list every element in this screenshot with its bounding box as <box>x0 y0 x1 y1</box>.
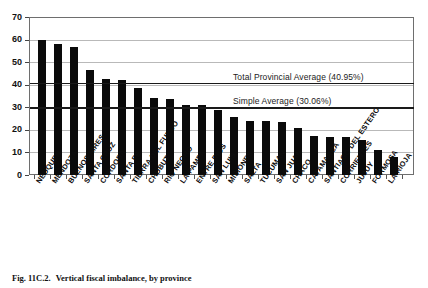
y-axis-tick-label: 40 <box>2 80 22 89</box>
total-provincial-average-line <box>30 83 414 85</box>
total-provincial-average-label: Total Provincial Average (40.95%) <box>233 72 364 82</box>
y-axis-tick-label: 60 <box>2 35 22 44</box>
simple-average-label: Simple Average (30.06%) <box>233 96 332 106</box>
caption-text: Vertical fiscal imbalance, by province <box>56 273 192 283</box>
y-axis-tick-label: 10 <box>2 148 22 157</box>
figure-container: 010203040506070 Total Provincial Average… <box>0 0 428 288</box>
caption-number: Fig. 11C.2. <box>12 273 51 283</box>
figure-caption: Fig. 11C.2.Vertical fiscal imbalance, by… <box>12 273 192 283</box>
simple-average-line <box>30 107 414 109</box>
y-axis-tick-label: 50 <box>2 58 22 67</box>
y-axis-tick-label: 70 <box>2 13 22 22</box>
y-axis-tick-label: 20 <box>2 125 22 134</box>
x-axis-labels: NEUQUENMENDOZABUENOS AIRESSANTA CRUZCORD… <box>0 176 428 256</box>
y-axis-tick-label: 30 <box>2 103 22 112</box>
